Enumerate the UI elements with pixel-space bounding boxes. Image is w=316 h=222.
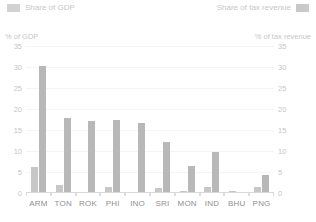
x-axis-tick-label: TON [51, 199, 76, 208]
right-axis-tick-label: 25 [278, 84, 286, 93]
right-axis-tick-label: 0 [278, 189, 282, 198]
bar-share-of-tax-revenue[interactable] [88, 121, 95, 193]
x-axis-tick [200, 193, 225, 196]
legend-swatch-icon [296, 4, 309, 12]
legend-label-share-of-gdp: Share of GDP [25, 3, 75, 12]
bar-group [125, 46, 150, 193]
x-axis-tick-label: ROK [76, 199, 101, 208]
legend-label-share-of-tax-revenue: Share of tax revenue [217, 3, 291, 12]
bar-group [76, 46, 101, 193]
left-axis-caption: % of GDP [5, 32, 38, 41]
right-axis-tick-label: 5 [278, 168, 282, 177]
x-axis-tick-label: BHU [224, 199, 249, 208]
bar-share-of-tax-revenue[interactable] [64, 118, 71, 193]
x-axis-tick-label: MON [175, 199, 200, 208]
x-axis-tick [76, 193, 101, 196]
left-axis-tick-label: 15 [14, 126, 22, 135]
left-axis-tick-label: 25 [14, 84, 22, 93]
x-axis-tick [26, 193, 51, 196]
x-axis-tick [249, 193, 274, 196]
bar-group [249, 46, 274, 193]
bar-share-of-tax-revenue[interactable] [212, 152, 219, 193]
plot-area [26, 46, 274, 193]
bar-groups [26, 46, 274, 193]
x-axis-tick-label: PNG [249, 199, 274, 208]
bar-group [175, 46, 200, 193]
legend-swatch-icon [7, 4, 20, 12]
x-axis-ticks [26, 193, 274, 196]
right-axis-tick-label: 15 [278, 126, 286, 135]
bar-share-of-tax-revenue[interactable] [262, 175, 269, 193]
left-axis-tick-label: 30 [14, 63, 22, 72]
left-axis-tick-label: 5 [18, 168, 22, 177]
x-axis-tick [175, 193, 200, 196]
right-axis-tick-label: 35 [278, 42, 286, 51]
bar-group [200, 46, 225, 193]
x-axis-tick-label: ARM [26, 199, 51, 208]
legend-item-share-of-gdp[interactable]: Share of GDP [7, 3, 75, 12]
x-axis-tick-label: PHI [100, 199, 125, 208]
right-axis-tick-label: 30 [278, 63, 286, 72]
x-axis-tick-label: INO [125, 199, 150, 208]
chart-container: Share of GDP Share of tax revenue % of G… [0, 0, 316, 222]
x-axis-tick-label: IND [200, 199, 225, 208]
legend-item-share-of-tax-revenue[interactable]: Share of tax revenue [217, 3, 309, 12]
left-axis-tick-label: 35 [14, 42, 22, 51]
x-axis-tick-labels: ARMTONROKPHIINOSRIMONINDBHUPNG [26, 199, 274, 208]
x-axis-tick [125, 193, 150, 196]
bar-group [51, 46, 76, 193]
left-axis-tick-label: 10 [14, 147, 22, 156]
bar-share-of-tax-revenue[interactable] [163, 142, 170, 193]
bar-group [100, 46, 125, 193]
left-axis-tick-label: 20 [14, 105, 22, 114]
bar-group [224, 46, 249, 193]
bar-share-of-tax-revenue[interactable] [188, 166, 195, 193]
bar-group [150, 46, 175, 193]
right-axis-caption: % of tax revenue [255, 32, 311, 41]
x-axis-tick [100, 193, 125, 196]
bar-group [26, 46, 51, 193]
bar-share-of-tax-revenue[interactable] [138, 123, 145, 193]
bar-share-of-gdp[interactable] [31, 167, 38, 193]
bar-share-of-tax-revenue[interactable] [113, 120, 120, 194]
x-axis-tick [150, 193, 175, 196]
left-axis-tick-label: 0 [18, 189, 22, 198]
x-axis-tick-label: SRI [150, 199, 175, 208]
chart-legend: Share of GDP Share of tax revenue [0, 0, 316, 20]
right-axis-tick-label: 20 [278, 105, 286, 114]
bar-share-of-tax-revenue[interactable] [39, 66, 46, 193]
x-axis-tick [51, 193, 76, 196]
x-axis-tick [224, 193, 249, 196]
right-axis-tick-label: 10 [278, 147, 286, 156]
